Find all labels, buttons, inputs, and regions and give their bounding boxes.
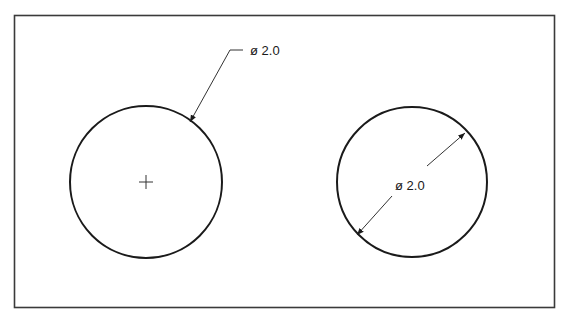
leader-line	[190, 50, 243, 122]
center-mark-icon	[139, 175, 153, 189]
left-circle-group: ø 2.0	[70, 43, 280, 258]
drawing-svg: ø 2.0 ø 2.0	[0, 0, 569, 324]
right-circle-group: ø 2.0	[337, 107, 487, 257]
left-diameter-label: ø 2.0	[250, 43, 280, 58]
dimension-line-upper	[427, 133, 465, 166]
drawing-canvas: ø 2.0 ø 2.0	[0, 0, 569, 324]
drawing-frame	[15, 16, 555, 308]
dimension-line-lower	[357, 196, 392, 235]
right-diameter-label: ø 2.0	[395, 178, 425, 193]
